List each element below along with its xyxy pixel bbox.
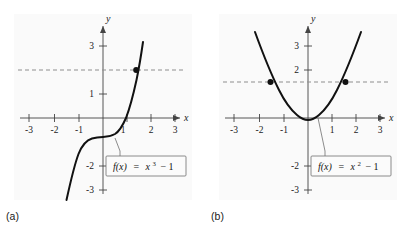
y-tick-label-b-neg2: -2 bbox=[291, 161, 299, 171]
x-tick-label-a-neg2: -2 bbox=[51, 125, 59, 135]
intersection-point-b-left bbox=[268, 79, 274, 85]
plot-a: x y -3 -2 -1 1 2 3 bbox=[8, 8, 198, 204]
intersection-point-b-right bbox=[343, 79, 349, 85]
y-tick-label-a-neg2: -2 bbox=[86, 161, 94, 171]
x-tick-label-b-pos2: 2 bbox=[354, 125, 359, 135]
callout-leader-a bbox=[115, 138, 120, 156]
x-tick-label-b-neg3: -3 bbox=[230, 125, 238, 135]
panel-b: x y -3 -2 -1 1 2 3 bbox=[213, 8, 403, 204]
equation-equals-b: = bbox=[338, 161, 344, 172]
equation-exponent-a: 3 bbox=[152, 160, 156, 167]
y-tick-label-a-3: 3 bbox=[89, 41, 94, 51]
y-tick-label-b-3: 3 bbox=[294, 41, 299, 51]
x-tick-label-a-pos2: 2 bbox=[149, 125, 154, 135]
x-tick-label-a-neg3: -3 bbox=[25, 125, 33, 135]
y-axis-label-a: y bbox=[105, 13, 111, 24]
y-tick-label-a-neg3: -3 bbox=[86, 185, 94, 195]
y-axis-arrow-a bbox=[100, 26, 106, 33]
x-tick-label-b-neg1: -1 bbox=[280, 125, 288, 135]
caption-a: (a) bbox=[6, 210, 19, 222]
panel-a: x y -3 -2 -1 1 2 3 bbox=[8, 8, 198, 204]
equation-base-a: x bbox=[145, 161, 151, 172]
x-axis-label-b: x bbox=[388, 112, 394, 123]
x-axis-arrow-b bbox=[378, 115, 385, 121]
x-tick-label-b-pos1: 1 bbox=[330, 125, 335, 135]
x-tick-label-b-pos3: 3 bbox=[378, 125, 383, 135]
x-axis-arrow-a bbox=[173, 115, 180, 121]
callout-leader-b bbox=[318, 118, 325, 156]
equation-base-b: x bbox=[350, 161, 356, 172]
caption-b: (b) bbox=[211, 210, 224, 222]
y-tick-label-b-neg3: -3 bbox=[291, 185, 299, 195]
equation-exponent-b: 2 bbox=[357, 160, 361, 167]
x-tick-label-a-neg1: -1 bbox=[75, 125, 83, 135]
y-axis-arrow-b bbox=[305, 26, 311, 33]
y-tick-label-a-1: 1 bbox=[89, 89, 94, 99]
x-tick-label-a-pos3: 3 bbox=[173, 125, 178, 135]
equation-equals-a: = bbox=[133, 161, 139, 172]
intersection-point-a bbox=[133, 67, 139, 73]
plot-b: x y -3 -2 -1 1 2 3 bbox=[213, 8, 403, 204]
y-axis-label-b: y bbox=[310, 13, 316, 24]
equation-tail-b: − 1 bbox=[365, 161, 378, 172]
equation-fn-b: f(x) bbox=[318, 161, 333, 173]
equation-fn-a: f(x) bbox=[113, 161, 128, 173]
x-axis-label-a: x bbox=[183, 112, 189, 123]
equation-tail-a: − 1 bbox=[160, 161, 173, 172]
x-tick-label-b-neg2: -2 bbox=[256, 125, 264, 135]
y-tick-label-b-2: 2 bbox=[294, 65, 299, 75]
figure-root: x y -3 -2 -1 1 2 3 bbox=[0, 0, 410, 236]
